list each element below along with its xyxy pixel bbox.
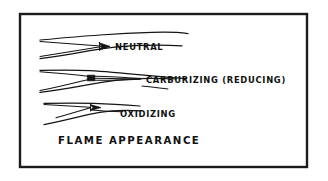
flame-appearance-figure: NEUTRAL CARBURIZING (REDUCING) [0,0,328,181]
figure-caption: FLAME APPEARANCE [58,135,200,146]
flame-label-oxidizing: OXIDIZING [120,109,176,119]
flame-label-carburizing: CARBURIZING (REDUCING) [146,75,286,85]
flame-label-neutral: NEUTRAL [115,42,163,52]
carburizing-feather-mid [95,78,141,79]
diagram-canvas: NEUTRAL CARBURIZING (REDUCING) [0,0,328,181]
carburizing-inner-cone-box [87,75,94,81]
